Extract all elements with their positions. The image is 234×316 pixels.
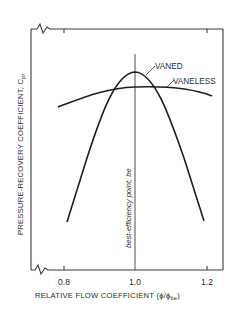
- y-axis-title-subscript: pr: [20, 73, 26, 78]
- x-ticks: [64, 29, 207, 270]
- x-axis-title-close: ): [177, 291, 180, 300]
- vaned-curve: [67, 72, 204, 222]
- x-axis-line: [31, 265, 223, 274]
- top-axis-line: [31, 24, 223, 33]
- x-tick-label-1.0: 1.0: [129, 277, 141, 287]
- pressure-recovery-chart: VANED VANELESS best-efficiency point, be…: [0, 0, 234, 316]
- vaned-leader-line: [146, 66, 155, 75]
- x-tick-label-0.8: 0.8: [58, 277, 70, 287]
- y-axis-title: PRESSURE-RECOVERY COEFFICIENT, Cpr: [16, 73, 26, 235]
- x-axis-title-main: RELATIVE FLOW COEFFICIENT (ϕ/ϕ: [35, 291, 171, 300]
- vaneless-label: VANELESS: [173, 77, 216, 86]
- y-axis-title-main: PRESSURE-RECOVERY COEFFICIENT, C: [16, 78, 25, 235]
- x-axis-title-subscript: be: [171, 295, 178, 301]
- x-axis-title: RELATIVE FLOW COEFFICIENT (ϕ/ϕbe): [35, 291, 180, 301]
- best-efficiency-label: best-efficiency point, be: [124, 168, 133, 248]
- vaned-label: VANED: [155, 62, 183, 71]
- x-tick-label-1.2: 1.2: [201, 277, 213, 287]
